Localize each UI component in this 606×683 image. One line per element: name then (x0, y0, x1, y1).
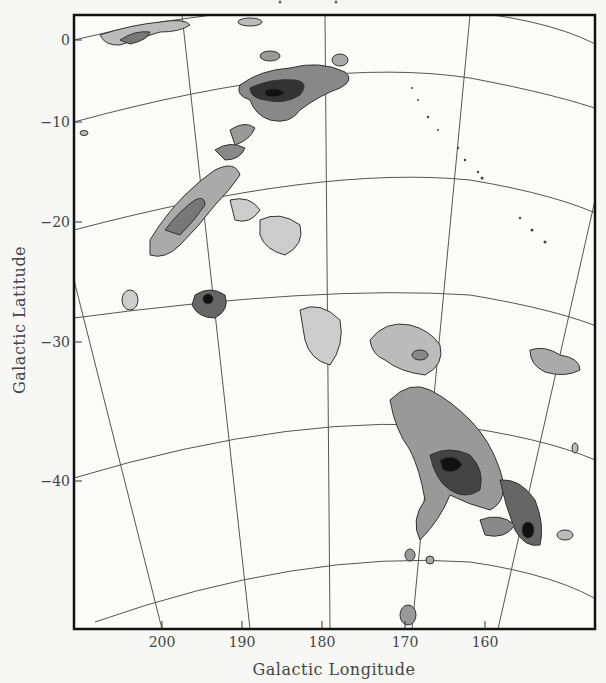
x-tick-labels: 200 190 180 170 160 (149, 634, 499, 650)
y-tick-2: −20 (40, 214, 70, 230)
y-tick-3: −30 (40, 334, 70, 350)
cropped-title (279, 1, 338, 4)
x-tick-0: 200 (149, 634, 176, 650)
contour-map-chart: 0 −10 −20 −30 −40 200 190 180 170 160 Ga… (0, 0, 606, 683)
x-tick-1: 190 (229, 634, 256, 650)
y-tick-1: −10 (40, 114, 70, 130)
x-tick-3: 170 (392, 634, 419, 650)
y-tick-labels: 0 −10 −20 −30 −40 (40, 32, 70, 489)
x-tick-4: 160 (472, 634, 499, 650)
x-tick-2: 180 (309, 634, 336, 650)
y-tick-0: 0 (61, 32, 70, 48)
y-axis-title: Galactic Latitude (10, 246, 29, 394)
y-tick-4: −40 (40, 473, 70, 489)
x-axis-title: Galactic Longitude (253, 660, 416, 679)
